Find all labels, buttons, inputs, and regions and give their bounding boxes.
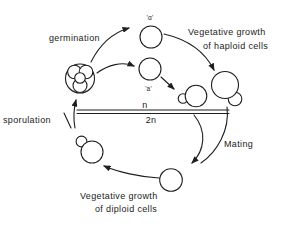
- vegetative-growth-diploid-label-line2: of diploid cells: [95, 204, 157, 214]
- mating-type-alpha-label: 'α': [147, 14, 154, 21]
- ascus-tetrad: [66, 64, 95, 93]
- sporulation-arrow: [74, 100, 76, 128]
- haploid-budding-cell: [212, 72, 242, 106]
- a-haploid-cell: [139, 58, 161, 80]
- yeast-life-cycle-diagram: germination 'α' 'a' Vegetative growth of…: [0, 0, 304, 227]
- vegetative-growth-haploid-label-line2: of haploid cells: [203, 41, 268, 51]
- mating-label: Mating: [224, 139, 253, 149]
- vegetative-growth-diploid-label-line1: Vegetative growth: [80, 191, 158, 201]
- mating-type-a-label: 'a': [145, 85, 152, 92]
- sporulation-label: sporulation: [3, 115, 51, 125]
- haploid-n-label: n: [142, 100, 147, 110]
- diploid-cell: [160, 169, 183, 192]
- germination-label: germination: [49, 33, 100, 43]
- haploid-mother-cell: [212, 72, 239, 99]
- mating-funnel-left-arrow: [192, 115, 203, 163]
- zygote-budding-cell: [178, 85, 207, 107]
- vegetative-growth-haploid-label-line1: Vegetative growth: [188, 27, 266, 37]
- diploid-mother-cell: [81, 141, 103, 163]
- diploid-growth-arrow: [104, 166, 159, 178]
- germination-arrow-to-a-cell: [97, 64, 134, 73]
- sporulation-pointer-line: [64, 113, 71, 128]
- mating-funnel-right-line: [201, 107, 227, 163]
- haploid-growth-arrow: [164, 34, 214, 70]
- a-cell-to-zygote-arrow: [161, 77, 174, 89]
- zygote-body: [185, 85, 207, 107]
- spore-center: [75, 73, 86, 84]
- yeast-life-cycle-figure: germination 'α' 'a' Vegetative growth of…: [0, 0, 304, 227]
- diploid-2n-label: 2n: [146, 115, 157, 125]
- alpha-haploid-cell: [140, 26, 162, 48]
- diploid-budding-cell: [76, 136, 103, 163]
- ploidy-divider-line: [77, 110, 229, 114]
